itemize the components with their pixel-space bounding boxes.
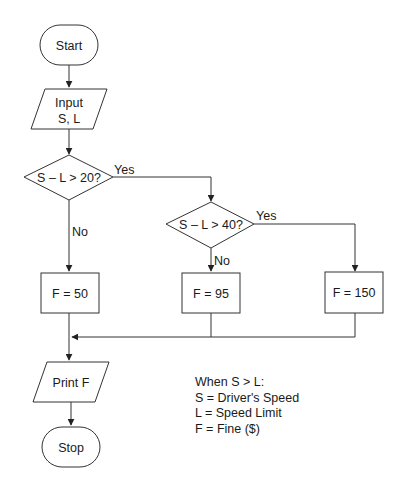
- stop-label: Stop: [58, 441, 84, 455]
- fine-150-node: F = 150: [325, 272, 383, 313]
- fine-50-node: F = 50: [41, 273, 99, 313]
- fine-95-node: F = 95: [182, 273, 240, 313]
- decision2-label: S – L > 40?: [179, 218, 243, 232]
- edge-merge: [72, 313, 355, 337]
- input-label-line1: Input: [55, 96, 83, 110]
- decision1-label: S – L > 20?: [37, 171, 101, 185]
- fine-95-label: F = 95: [193, 287, 229, 301]
- decision1-node: S – L > 20?: [24, 155, 113, 200]
- legend-title: When S > L:: [195, 375, 299, 391]
- input-node: Input S, L: [31, 89, 107, 129]
- decision2-no-label: No: [214, 254, 230, 268]
- edge-decision1-yes: [113, 177, 211, 201]
- legend-item-limit: L = Speed Limit: [195, 406, 299, 422]
- decision1-no-label: No: [72, 225, 88, 239]
- fine-150-label: F = 150: [333, 286, 376, 300]
- legend-item-speed: S = Driver's Speed: [195, 391, 299, 407]
- fine-50-label: F = 50: [52, 287, 88, 301]
- decision1-yes-label: Yes: [114, 163, 134, 177]
- start-label: Start: [56, 39, 83, 53]
- decision2-node: S – L > 40?: [166, 202, 254, 248]
- stop-node: Stop: [42, 427, 100, 467]
- print-label: Print F: [53, 376, 90, 390]
- legend-item-fine: F = Fine ($): [195, 422, 299, 438]
- decision2-yes-label: Yes: [256, 209, 276, 223]
- start-node: Start: [40, 25, 98, 65]
- legend: When S > L: S = Driver's Speed L = Speed…: [195, 375, 299, 437]
- input-label-line2: S, L: [58, 112, 80, 126]
- edge-decision2-yes: [254, 224, 355, 271]
- print-node: Print F: [33, 362, 109, 402]
